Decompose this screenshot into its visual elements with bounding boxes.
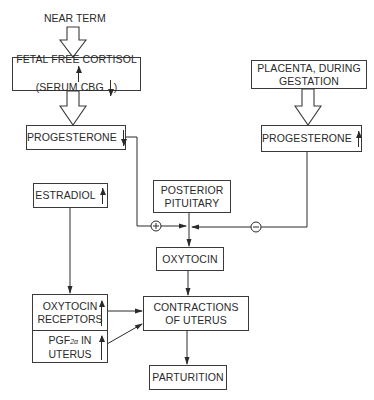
node-progesterone-left: PROGESTERONE [26, 125, 126, 150]
node-oxytocin-receptors: OXYTOCIN RECEPTORS [33, 295, 107, 330]
pgf-prefix: PGF [49, 334, 71, 346]
arrow-down-icon [108, 80, 114, 96]
arrow-up-icon-head [99, 300, 105, 307]
placenta-line2: GESTATION [279, 75, 339, 88]
parturition-text: PARTURITION [152, 371, 223, 384]
node-posterior-pituitary: POSTERIOR PITUITARY [153, 180, 231, 213]
arrow-down-icon [121, 130, 125, 146]
progesterone-right-text: PROGESTERONE [262, 132, 352, 145]
node-pgf2a-in-uterus: PGF2α IN UTERUS [33, 331, 107, 363]
arrow-up-icon-head [99, 335, 105, 342]
posterior-pituitary-line2: PITUITARY [165, 197, 220, 210]
oxytocin-receptors-line2: RECEPTORS [37, 313, 102, 326]
near-term-label: NEAR TERM [44, 12, 106, 24]
serum-cbg-text: (SERUM CBG [36, 80, 104, 92]
node-fetal-free-cortisol: FETAL FREE CORTISOL (SERUM CBG) [12, 57, 141, 91]
pgf-line2: UTERUS [48, 348, 91, 361]
estradiol-text: ESTRADIOL [35, 189, 95, 202]
posterior-pituitary-line1: POSTERIOR [161, 184, 224, 197]
pgf-suffix: IN [78, 334, 91, 346]
oxytocin-text: OXYTOCIN [162, 253, 217, 266]
arrow-up-icon [76, 66, 82, 82]
pgf-subscript: 2α [70, 338, 78, 345]
contractions-line2: OF UTERUS [165, 314, 227, 327]
contractions-line1: CONTRACTIONS [153, 301, 238, 314]
node-contractions-of-uterus: CONTRACTIONS OF UTERUS [143, 296, 249, 331]
fetal-cortisol-text: FETAL FREE CORTISOL [16, 53, 137, 65]
node-uterine-factors: OXYTOCIN RECEPTORS PGF2α IN UTERUS [32, 294, 108, 363]
placenta-line1: PLACENTA, DURING [257, 62, 361, 75]
node-oxytocin: OXYTOCIN [156, 247, 224, 271]
arrow-up-icon [100, 188, 106, 204]
hollow-arrow-placenta [295, 89, 321, 125]
node-placenta: PLACENTA, DURING GESTATION [251, 60, 367, 89]
oxytocin-receptors-line1: OXYTOCIN [37, 300, 102, 313]
node-parturition: PARTURITION [149, 365, 227, 390]
arrow-up-icon [356, 131, 361, 147]
hollow-arrow-cortisol [60, 91, 86, 125]
progesterone-left-text: PROGESTERONE [27, 131, 117, 144]
node-estradiol: ESTRADIOL [33, 183, 108, 208]
node-progesterone-right: PROGESTERONE [261, 125, 362, 152]
